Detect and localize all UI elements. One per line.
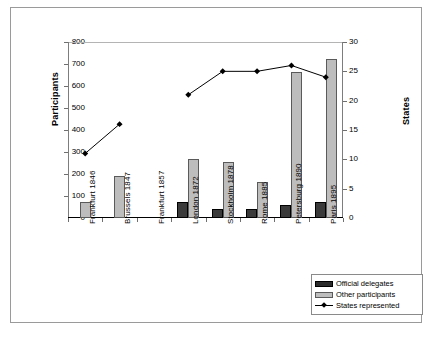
bar-official-delegates <box>280 205 291 218</box>
y-tick-right-20: 20 <box>349 97 379 105</box>
legend-item-0: Official delegates <box>315 278 419 289</box>
y-tick-right-15: 15 <box>349 126 379 134</box>
bar-official-delegates <box>177 202 188 219</box>
y-axis-label-right: States <box>401 76 411 146</box>
legend-swatch-official-icon <box>315 281 333 287</box>
x-category-label-3: London 1872 <box>192 176 200 224</box>
bar-official-delegates <box>212 209 223 218</box>
plot-border-right <box>342 42 343 218</box>
legend-label: States represented <box>336 302 399 310</box>
x-category-label-1: Brussels 1847 <box>124 172 132 224</box>
x-category-label-4: Stockholm 1878 <box>227 165 235 224</box>
x-tick-mark <box>240 218 241 222</box>
legend-item-1: Other participants <box>315 289 419 300</box>
x-category-label-6: Petersburg 1890 <box>295 163 303 224</box>
x-tick-mark <box>274 218 275 222</box>
legend-label: Official delegates <box>336 280 393 288</box>
y-tick-mark-right-5 <box>343 189 347 190</box>
x-category-label-0: Frankfurt 1846 <box>89 171 97 224</box>
plot-border-left <box>68 42 69 218</box>
chart-legend: Official delegatesOther participantsStat… <box>311 274 423 315</box>
bar-official-delegates <box>246 209 257 218</box>
x-tick-mark <box>102 218 103 222</box>
x-tick-mark <box>206 218 207 222</box>
x-tick-mark <box>343 218 344 222</box>
y-tick-mark-right-15 <box>343 130 347 131</box>
x-category-label-5: Rome 1885 <box>261 182 269 224</box>
plot-border-top <box>68 42 343 43</box>
x-tick-mark <box>137 218 138 222</box>
x-category-label-2: Frankfurt 1857 <box>158 171 166 224</box>
chart-frame: Participants States 01002003004005006007… <box>10 7 422 323</box>
y-tick-right-10: 10 <box>349 155 379 163</box>
y-tick-right-5: 5 <box>349 185 379 193</box>
y-tick-mark-right-10 <box>343 159 347 160</box>
x-tick-mark <box>171 218 172 222</box>
x-tick-mark <box>68 218 69 222</box>
y-tick-right-30: 30 <box>349 38 379 46</box>
y-tick-mark-right-30 <box>343 42 347 43</box>
y-tick-mark-right-20 <box>343 101 347 102</box>
bar-official-delegates <box>315 202 326 219</box>
y-tick-mark-right-25 <box>343 71 347 72</box>
y-tick-right-25: 25 <box>349 67 379 75</box>
y-tick-right-0: 0 <box>349 214 379 222</box>
legend-item-2: States represented <box>315 300 419 311</box>
legend-swatch-line-icon <box>315 302 333 310</box>
x-tick-mark <box>309 218 310 222</box>
legend-swatch-other-icon <box>315 292 333 298</box>
x-category-label-7: Paris 1895 <box>330 185 338 224</box>
legend-label: Other participants <box>336 291 395 299</box>
